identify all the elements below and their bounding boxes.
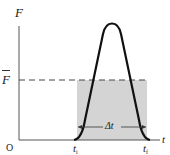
impulse-diagram — [0, 0, 170, 155]
average-force-label: F — [2, 73, 10, 86]
overbar — [2, 70, 10, 71]
x-axis-label: t — [162, 134, 165, 145]
average-force-symbol: F — [2, 72, 10, 87]
end-time-label: tf — [143, 143, 148, 155]
end-time-sub: f — [146, 149, 148, 155]
origin-label: O — [6, 143, 13, 153]
start-time-sub: i — [76, 149, 78, 155]
y-axis-label: F — [15, 6, 23, 19]
interval-label: Δt — [105, 121, 114, 131]
start-time-label: ti — [73, 143, 78, 155]
